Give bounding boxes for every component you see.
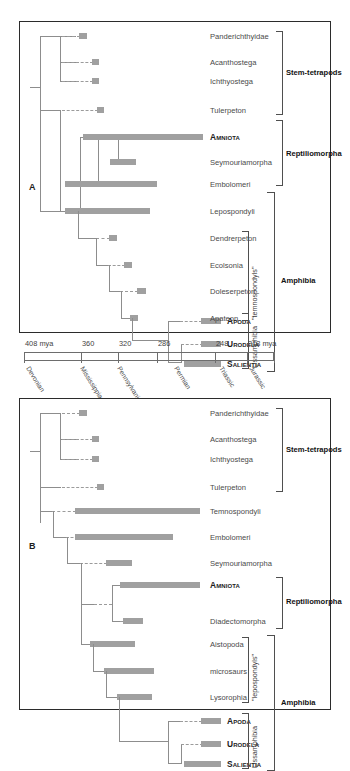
taxon-label: Ichthyostega bbox=[210, 456, 253, 464]
axis-tick bbox=[118, 352, 119, 363]
period-label: Triassic bbox=[218, 365, 236, 388]
clade-label: "lepospondyls" bbox=[251, 639, 258, 701]
time-axis: 408 mya 360 320 286 248 213 mya Devonian… bbox=[19, 338, 331, 396]
range-bar bbox=[123, 618, 143, 624]
range-dash bbox=[180, 721, 202, 722]
branch-line bbox=[81, 604, 95, 605]
clade-bracket bbox=[242, 637, 249, 703]
branch-line bbox=[80, 137, 81, 211]
axis-tick-label: 286 bbox=[158, 339, 170, 348]
branch-line bbox=[81, 563, 82, 604]
branch-line bbox=[67, 537, 68, 563]
taxon-label: Embolomeri bbox=[210, 534, 251, 542]
taxon-label: Amniota bbox=[210, 133, 240, 141]
taxon-label: Seymouriamorpha bbox=[210, 560, 272, 568]
range-bar bbox=[90, 641, 135, 647]
range-bar bbox=[65, 181, 157, 187]
taxon-label: Acanthostega bbox=[210, 436, 256, 444]
panel-b-letter: B bbox=[29, 541, 36, 551]
branch-line bbox=[67, 563, 81, 564]
range-dash bbox=[62, 110, 98, 111]
taxon-label: Ichthyostega bbox=[210, 78, 253, 86]
branch-line bbox=[93, 644, 94, 671]
range-bar bbox=[106, 560, 132, 566]
range-bar bbox=[92, 59, 99, 65]
branch-line bbox=[96, 238, 97, 265]
branch-line bbox=[40, 487, 61, 488]
period-label: Permian bbox=[173, 365, 192, 390]
range-bar bbox=[201, 718, 221, 724]
range-dash bbox=[108, 265, 125, 266]
branch-line bbox=[168, 721, 169, 763]
clade-label: Amphibia bbox=[281, 699, 316, 707]
clade-bracket bbox=[242, 231, 249, 321]
taxon-label: Diadectomorpha bbox=[210, 618, 266, 626]
branch-line bbox=[109, 265, 110, 291]
branch-line bbox=[81, 604, 82, 644]
range-bar bbox=[92, 436, 99, 442]
axis-line bbox=[24, 352, 274, 361]
clade-bracket bbox=[276, 120, 283, 186]
range-bar bbox=[83, 134, 203, 140]
range-dash bbox=[62, 439, 93, 440]
range-dash bbox=[62, 62, 93, 63]
axis-tick bbox=[157, 352, 158, 363]
range-bar bbox=[124, 262, 132, 268]
axis-tick-label: 320 bbox=[119, 339, 131, 348]
range-bar bbox=[97, 484, 104, 490]
taxon-label: Embolomeri bbox=[210, 181, 251, 189]
taxon-label: Tulerpeton bbox=[210, 484, 246, 492]
range-dash bbox=[80, 563, 107, 564]
range-bar bbox=[75, 534, 173, 540]
range-bar bbox=[110, 159, 136, 165]
range-bar bbox=[117, 694, 152, 700]
branch-line bbox=[98, 137, 99, 184]
range-bar bbox=[184, 761, 221, 767]
taxon-label: Panderichthyidae bbox=[210, 33, 269, 41]
taxon-label: Ecolsonia bbox=[210, 262, 243, 270]
taxon-label: Aistopoda bbox=[210, 641, 244, 649]
period-label: Devonian bbox=[25, 365, 46, 393]
range-dash bbox=[62, 487, 98, 488]
axis-tick bbox=[274, 352, 275, 363]
branch-line bbox=[40, 36, 41, 211]
range-dash bbox=[62, 81, 93, 82]
clade-label: Lissamphibia bbox=[251, 716, 258, 768]
range-dash bbox=[181, 744, 203, 745]
range-bar bbox=[92, 456, 99, 462]
range-bar bbox=[137, 288, 146, 294]
clade-label: Stem-tetrapods bbox=[286, 69, 342, 77]
panel-a-letter: A bbox=[29, 182, 36, 192]
range-dash bbox=[94, 604, 112, 605]
branch-line bbox=[119, 741, 169, 742]
axis-tick bbox=[247, 352, 248, 363]
period-label: Jurassic bbox=[248, 365, 267, 390]
clade-label: Amphibia bbox=[281, 277, 316, 285]
clade-label: Reptiliomorpha bbox=[286, 598, 342, 606]
axis-tick bbox=[24, 352, 25, 363]
axis-tick-label: 360 bbox=[82, 339, 94, 348]
range-dash bbox=[62, 459, 93, 460]
range-bar bbox=[201, 741, 221, 747]
range-dash bbox=[52, 511, 76, 512]
taxon-label: Seymouriamorpha bbox=[210, 159, 272, 167]
taxon-label: Temnospondyli bbox=[210, 508, 261, 516]
branch-line bbox=[30, 87, 41, 88]
clade-bracket bbox=[276, 408, 283, 492]
branch-line bbox=[181, 744, 182, 763]
taxon-label: Lepospondyli bbox=[210, 208, 255, 216]
branch-line bbox=[112, 585, 113, 621]
range-dash bbox=[62, 413, 80, 414]
range-bar bbox=[75, 508, 200, 514]
range-dash bbox=[120, 291, 138, 292]
range-dash bbox=[96, 238, 110, 239]
axis-tick bbox=[81, 352, 82, 363]
panel-a: A bbox=[19, 21, 331, 333]
branch-line bbox=[132, 318, 133, 340]
clade-bracket bbox=[242, 713, 249, 769]
taxon-label: Panderichthyidae bbox=[210, 410, 269, 418]
axis-tick-label: 248 bbox=[216, 339, 228, 348]
range-bar bbox=[79, 410, 87, 416]
taxon-label: Dendrerpeton bbox=[210, 235, 256, 243]
axis-tick bbox=[215, 352, 216, 363]
